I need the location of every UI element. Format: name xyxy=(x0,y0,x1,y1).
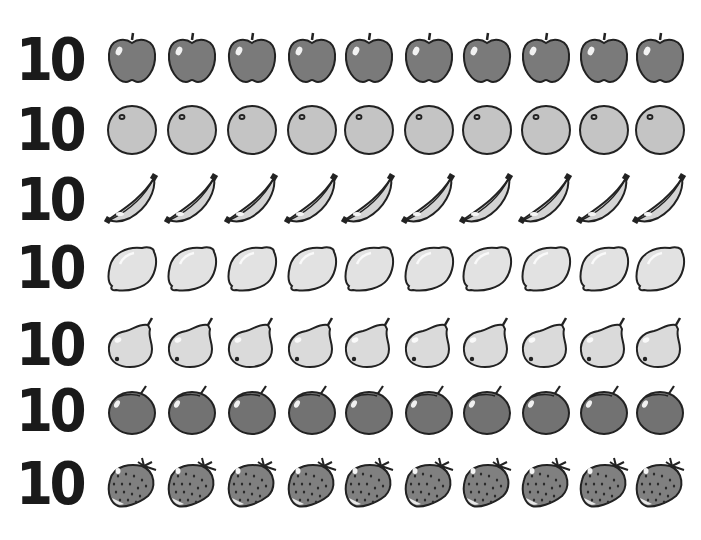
pear-icon xyxy=(224,315,280,375)
orange-icon xyxy=(459,100,515,160)
plum-icon xyxy=(284,381,340,441)
row-pears: 10 xyxy=(0,315,701,375)
apple-icon xyxy=(401,30,457,90)
banana-icon xyxy=(224,170,280,230)
orange-icon xyxy=(224,100,280,160)
orange-icon xyxy=(518,100,574,160)
apple-icon xyxy=(164,30,220,90)
plum-icon xyxy=(459,381,515,441)
pear-icon xyxy=(164,315,220,375)
plum-group xyxy=(100,381,695,441)
count-label: 10 xyxy=(16,315,83,375)
strawberry-icon xyxy=(576,454,632,514)
lemon-icon xyxy=(518,238,574,298)
apple-icon xyxy=(284,30,340,90)
orange-icon xyxy=(284,100,340,160)
strawberry-icon xyxy=(518,454,574,514)
row-lemons: 10 xyxy=(0,238,701,298)
apple-icon xyxy=(576,30,632,90)
orange-icon xyxy=(576,100,632,160)
strawberry-icon xyxy=(632,454,688,514)
pear-icon xyxy=(576,315,632,375)
row-plums: 10 xyxy=(0,381,701,441)
apple-icon xyxy=(104,30,160,90)
apple-icon xyxy=(518,30,574,90)
strawberry-icon xyxy=(164,454,220,514)
orange-icon xyxy=(632,100,688,160)
plum-icon xyxy=(164,381,220,441)
strawberry-icon xyxy=(104,454,160,514)
lemon-icon xyxy=(224,238,280,298)
plum-icon xyxy=(341,381,397,441)
apple-icon xyxy=(224,30,280,90)
lemon-icon xyxy=(632,238,688,298)
apple-icon xyxy=(459,30,515,90)
strawberry-icon xyxy=(224,454,280,514)
strawberry-icon xyxy=(341,454,397,514)
banana-icon xyxy=(459,170,515,230)
plum-icon xyxy=(518,381,574,441)
count-label: 10 xyxy=(16,30,83,90)
apple-group xyxy=(100,30,695,90)
banana-group xyxy=(100,170,695,230)
row-bananas: 10 xyxy=(0,170,701,230)
row-strawberries: 10 xyxy=(0,454,701,514)
pear-icon xyxy=(459,315,515,375)
lemon-icon xyxy=(576,238,632,298)
count-label: 10 xyxy=(16,381,83,441)
lemon-icon xyxy=(401,238,457,298)
pear-icon xyxy=(284,315,340,375)
pear-icon xyxy=(341,315,397,375)
count-label: 10 xyxy=(16,170,83,230)
plum-icon xyxy=(576,381,632,441)
strawberry-icon xyxy=(284,454,340,514)
orange-icon xyxy=(104,100,160,160)
lemon-icon xyxy=(164,238,220,298)
apple-icon xyxy=(632,30,688,90)
row-apples: 10 xyxy=(0,30,701,90)
pear-icon xyxy=(518,315,574,375)
row-oranges: 10 xyxy=(0,100,701,160)
banana-icon xyxy=(164,170,220,230)
banana-icon xyxy=(341,170,397,230)
plum-icon xyxy=(104,381,160,441)
banana-icon xyxy=(104,170,160,230)
pear-group xyxy=(100,315,695,375)
banana-icon xyxy=(401,170,457,230)
plum-icon xyxy=(224,381,280,441)
pear-icon xyxy=(104,315,160,375)
strawberry-icon xyxy=(459,454,515,514)
lemon-group xyxy=(100,238,695,298)
orange-icon xyxy=(401,100,457,160)
plum-icon xyxy=(632,381,688,441)
orange-icon xyxy=(164,100,220,160)
banana-icon xyxy=(576,170,632,230)
banana-icon xyxy=(284,170,340,230)
count-label: 10 xyxy=(16,238,83,298)
pear-icon xyxy=(401,315,457,375)
orange-icon xyxy=(341,100,397,160)
lemon-icon xyxy=(284,238,340,298)
banana-icon xyxy=(632,170,688,230)
apple-icon xyxy=(341,30,397,90)
lemon-icon xyxy=(341,238,397,298)
plum-icon xyxy=(401,381,457,441)
lemon-icon xyxy=(459,238,515,298)
pear-icon xyxy=(632,315,688,375)
count-label: 10 xyxy=(16,454,83,514)
lemon-icon xyxy=(104,238,160,298)
strawberry-icon xyxy=(401,454,457,514)
orange-group xyxy=(100,100,695,160)
count-label: 10 xyxy=(16,100,83,160)
strawberry-group xyxy=(100,454,695,514)
banana-icon xyxy=(518,170,574,230)
